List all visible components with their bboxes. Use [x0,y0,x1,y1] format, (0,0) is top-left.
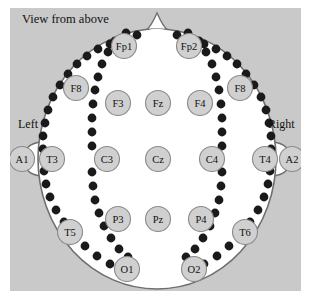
electrode-t4-12[interactable]: T4 [253,147,278,172]
electrode-label: T3 [46,154,58,165]
electrode-c3-9[interactable]: C3 [95,147,120,172]
electrode-label: F3 [112,98,123,109]
electrode-t6-18[interactable]: T6 [233,220,258,245]
electrode-p4-16[interactable]: P4 [189,207,214,232]
electrode-t5-17[interactable]: T5 [58,220,83,245]
electrode-label: O1 [121,264,134,275]
electrode-f8-3[interactable]: F8 [228,76,253,101]
electrode-fp1-0[interactable]: Fp1 [112,34,137,59]
electrode-label: P3 [112,214,123,225]
electrode-label: T5 [64,227,76,238]
electrode-o1-19[interactable]: O1 [115,257,140,282]
electrode-label: C3 [101,154,113,165]
electrode-label: O2 [188,264,201,275]
electrode-cz-10[interactable]: Cz [146,147,171,172]
electrode-a2-13[interactable]: A2 [280,147,305,172]
view-from-above-label: View from above [22,12,109,27]
electrode-label: F8 [234,83,245,94]
electrode-t3-8[interactable]: T3 [40,147,65,172]
electrode-label: Cz [152,154,164,165]
electrode-label: F8 [70,83,81,94]
electrode-f3-4[interactable]: F3 [106,91,131,116]
electrode-label: T6 [239,227,251,238]
left-side-label: Left [18,117,38,132]
electrode-label: A2 [286,154,299,165]
electrode-label: C4 [206,154,219,165]
electrode-p3-14[interactable]: P3 [106,207,131,232]
figure-root: Fp1Fp2F8F8F3FzF4A1T3C3CzC4T4A2P3PzP4T5T6… [0,0,315,303]
electrode-f8-2[interactable]: F8 [64,76,89,101]
electrode-label: Pz [153,214,164,225]
electrode-label: F4 [194,98,206,109]
electrode-label: T4 [259,154,271,165]
electrode-fp2-1[interactable]: Fp2 [177,34,202,59]
electrode-f4-6[interactable]: F4 [188,91,213,116]
electrode-o2-20[interactable]: O2 [182,257,207,282]
electrode-label: P4 [195,214,207,225]
right-side-label: Right [268,117,295,132]
electrode-c4-11[interactable]: C4 [200,147,225,172]
electrode-fz-5[interactable]: Fz [146,91,171,116]
nose-outline [146,13,168,30]
electrode-a1-7[interactable]: A1 [10,147,35,172]
electrode-label: Fp2 [181,41,197,52]
electrode-label: Fz [153,98,164,109]
eeg-head-diagram: Fp1Fp2F8F8F3FzF4A1T3C3CzC4T4A2P3PzP4T5T6… [0,0,315,303]
electrode-pz-15[interactable]: Pz [146,207,171,232]
electrode-label: A1 [16,154,29,165]
electrode-label: Fp1 [116,41,132,52]
